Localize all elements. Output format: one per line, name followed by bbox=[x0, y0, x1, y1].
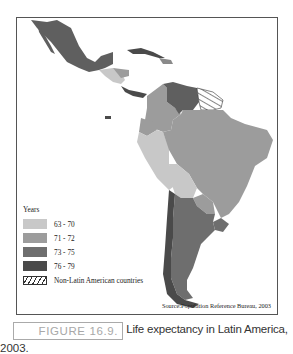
legend-item: 73 - 75 bbox=[23, 245, 143, 259]
caption-year: 2003. bbox=[0, 341, 29, 354]
legend-label: 76 - 79 bbox=[54, 262, 75, 271]
figure-caption: FIGURE 16.9. Life expectancy in Latin Am… bbox=[13, 322, 288, 340]
caption-text: Life expectancy in Latin America, bbox=[126, 323, 288, 335]
legend-label: 73 - 75 bbox=[54, 248, 75, 257]
map-source: Source:Population Reference Bureau, 2003 bbox=[162, 302, 271, 309]
legend-item: 76 - 79 bbox=[23, 259, 143, 273]
region-guianas bbox=[197, 88, 223, 110]
region-cuba bbox=[127, 48, 165, 58]
legend-item: Non-Latin American countries bbox=[23, 273, 143, 287]
legend-swatch bbox=[23, 233, 47, 243]
map-frame: Years 63 - 70 71 - 72 73 - 75 76 - 79 No… bbox=[16, 17, 278, 315]
legend-item: 63 - 70 bbox=[23, 217, 143, 231]
legend-swatch bbox=[23, 219, 47, 229]
figure-label: FIGURE 16.9. bbox=[13, 322, 123, 340]
map-legend: Years 63 - 70 71 - 72 73 - 75 76 - 79 No… bbox=[23, 205, 143, 287]
hatch-swatch-icon bbox=[23, 276, 47, 285]
legend-swatch bbox=[23, 261, 47, 271]
legend-label: 63 - 70 bbox=[54, 220, 75, 229]
region-mexico bbox=[31, 20, 113, 72]
legend-swatch bbox=[23, 247, 47, 257]
region-hispaniola bbox=[159, 58, 173, 64]
region-costa-rica-panama bbox=[121, 86, 147, 98]
legend-label: 71 - 72 bbox=[54, 234, 75, 243]
legend-item: 71 - 72 bbox=[23, 231, 143, 245]
region-galapagos bbox=[105, 116, 111, 119]
region-uruguay bbox=[213, 218, 229, 232]
legend-title: Years bbox=[23, 205, 143, 214]
legend-label: Non-Latin American countries bbox=[54, 276, 143, 285]
